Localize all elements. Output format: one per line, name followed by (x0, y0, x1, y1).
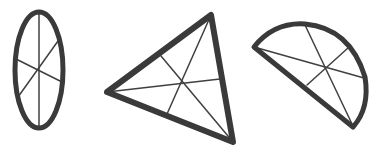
semicircle-outline (254, 24, 366, 127)
triangle-outline (107, 15, 233, 142)
semicircle-inner-line-3 (307, 48, 348, 85)
semicircle-shape (254, 24, 366, 127)
triangle-shape (107, 15, 233, 142)
ellipse-shape (15, 12, 63, 129)
ellipse-inner-line-3 (18, 41, 58, 97)
shapes-figure (0, 0, 377, 154)
